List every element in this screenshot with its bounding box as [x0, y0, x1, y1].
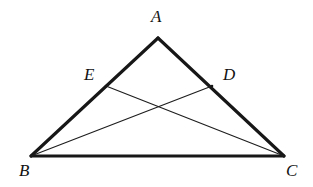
marked-points-group: [105, 85, 214, 88]
cevian-ce: [106, 86, 284, 156]
side-ab: [31, 38, 158, 156]
label-point-e: E: [84, 66, 94, 83]
side-ac: [158, 38, 284, 156]
triangle-sides-group: [31, 38, 284, 156]
point-d-marker: [211, 85, 214, 88]
triangle-diagram-canvas: [0, 0, 313, 187]
label-point-d: D: [223, 66, 235, 83]
label-vertex-c: C: [286, 162, 297, 179]
label-vertex-b: B: [19, 162, 29, 179]
cevian-bd: [31, 86, 212, 156]
point-e-marker: [105, 85, 108, 88]
label-vertex-a: A: [151, 8, 161, 25]
geometry-figure: A B C D E: [0, 0, 313, 187]
